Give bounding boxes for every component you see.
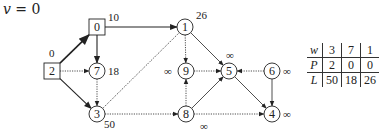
edge-1-5 — [191, 33, 224, 66]
table-cell: 1 — [361, 43, 380, 58]
node-0: 010 — [89, 11, 120, 35]
node-label: 4 — [269, 107, 275, 121]
distance-label: ∞ — [283, 108, 291, 120]
state-table: w371P200L501826 — [307, 43, 379, 87]
distance-label: ∞ — [200, 120, 208, 132]
distance-label: ∞ — [164, 65, 172, 77]
node-label: 7 — [94, 64, 100, 78]
node-2: 20 — [44, 47, 60, 79]
table-cell: 50 — [323, 73, 342, 88]
table-cell: 26 — [361, 73, 380, 88]
distance-label: 10 — [108, 11, 120, 23]
node-1: 126 — [177, 9, 208, 35]
row-header: P — [307, 58, 323, 73]
node-6: 6∞ — [264, 63, 291, 79]
distance-label: 26 — [196, 9, 208, 21]
edge-2-0 — [60, 35, 89, 63]
table-cell: 0 — [361, 58, 380, 73]
row-header: L — [307, 73, 323, 88]
node-3: 350 — [89, 106, 116, 130]
node-label: 5 — [226, 64, 232, 78]
table-cell: 2 — [323, 58, 342, 73]
node-4: 4∞ — [264, 106, 291, 122]
table-cell: 3 — [323, 43, 342, 58]
distance-label: ∞ — [226, 49, 234, 61]
table-row-P: P200 — [307, 58, 379, 73]
node-label: 6 — [269, 64, 275, 78]
table-cell: 18 — [342, 73, 361, 88]
distance-label: 50 — [104, 118, 116, 130]
table-cell: 0 — [342, 58, 361, 73]
table-row-L: L501826 — [307, 73, 379, 88]
edge-1-9 — [185, 35, 186, 63]
node-label: 0 — [94, 20, 100, 34]
distance-label: ∞ — [283, 65, 291, 77]
node-label: 3 — [94, 107, 100, 121]
edge-2-3 — [60, 79, 91, 109]
edge-8-5 — [192, 77, 224, 109]
node-label: 8 — [183, 107, 189, 121]
table-row-w: w371 — [307, 43, 379, 58]
node-label: 1 — [182, 20, 188, 34]
distance-label: 0 — [49, 47, 55, 59]
node-5: 5∞ — [221, 49, 237, 79]
node-label: 9 — [183, 64, 189, 78]
row-header: w — [307, 43, 323, 58]
node-7: 718 — [89, 63, 120, 79]
node-label: 2 — [49, 64, 55, 78]
edge-5-4 — [235, 77, 267, 109]
node-9: 9∞ — [164, 63, 194, 79]
table-cell: 7 — [342, 43, 361, 58]
distance-label: 18 — [108, 65, 120, 77]
node-8: 8∞ — [178, 106, 208, 132]
